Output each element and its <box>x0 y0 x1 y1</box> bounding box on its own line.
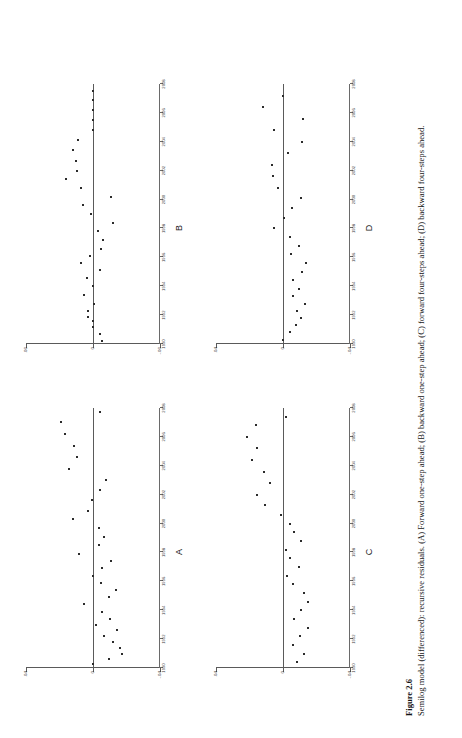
figure-caption: Figure 2.6 Semilog model (differenced): … <box>404 70 427 716</box>
scatter-point <box>87 316 89 318</box>
scatter-point <box>108 596 110 598</box>
scatter-point <box>92 119 94 121</box>
scatter-point <box>283 217 285 219</box>
x-axis-tick-label: 2000 <box>352 519 356 528</box>
y-axis-tick-label: 0 <box>281 671 285 673</box>
x-axis-line <box>349 84 350 344</box>
scatter-point <box>303 653 305 655</box>
scatter-point <box>296 310 298 312</box>
scatter-point <box>305 262 307 264</box>
x-axis-tick-label: 2008 <box>352 403 356 412</box>
x-axis-tick-label: 2006 <box>162 432 166 441</box>
x-axis-tick-label: 2004 <box>352 137 356 146</box>
panel-b: -.060.0619901992199419961998200020022004… <box>24 78 196 378</box>
scatter-point <box>76 456 78 458</box>
scatter-point <box>273 129 275 131</box>
scatter-point <box>86 277 88 279</box>
x-axis-tick-label: 1998 <box>352 548 356 557</box>
x-axis-tick-label: 2008 <box>162 403 166 412</box>
x-axis-tick-label: 2000 <box>162 195 166 204</box>
y-axis-tick-label: 0 <box>281 347 285 349</box>
x-axis-tick-label: 1990 <box>162 339 166 348</box>
scatter-point <box>292 583 294 585</box>
scatter-point <box>303 592 305 594</box>
x-axis-tick-label: 1998 <box>162 548 166 557</box>
x-axis-tick-label: 2002 <box>352 490 356 499</box>
scatter-point <box>300 317 302 319</box>
x-axis-tick-label: 1996 <box>162 577 166 586</box>
x-axis-tick-label: 1998 <box>352 224 356 233</box>
scatter-point <box>99 411 101 413</box>
panel-label-b: B <box>174 225 184 231</box>
scatter-point <box>285 549 287 551</box>
scatter-point <box>83 294 85 296</box>
scatter-point <box>98 544 100 546</box>
x-axis-tick-label: 2004 <box>162 137 166 146</box>
x-axis-tick-label: 1996 <box>352 577 356 586</box>
zero-reference-line <box>93 408 94 668</box>
scatter-point <box>298 245 300 247</box>
y-axis-tick-label: .04 <box>24 671 28 677</box>
x-axis-tick-label: 1996 <box>352 253 356 262</box>
scatter-point <box>298 566 300 568</box>
scatter-point <box>68 468 70 470</box>
scatter-point <box>109 618 111 620</box>
y-axis-tick-label: .04 <box>214 671 218 677</box>
scatter-point <box>80 262 82 264</box>
scatter-point <box>103 635 105 637</box>
scatter-point <box>101 611 103 613</box>
x-axis-tick-label: 1992 <box>162 634 166 643</box>
scatter-point <box>282 95 284 97</box>
scatter-point <box>302 118 304 120</box>
x-axis-tick-label: 2002 <box>162 490 166 499</box>
scatter-point <box>300 197 302 199</box>
scatter-point <box>99 489 101 491</box>
scatter-point <box>295 324 297 326</box>
scatter-point <box>291 207 293 209</box>
scatter-point <box>271 164 273 166</box>
y-axis-tick-label: .06 <box>24 347 28 353</box>
scatter-point <box>287 152 289 154</box>
scatter-point <box>92 285 94 287</box>
rotated-page-content: -.040.0419901992199419961998200020022004… <box>0 0 462 738</box>
figure-caption-text: Semilog model (differenced): recursive r… <box>416 70 427 716</box>
scatter-point <box>255 424 257 426</box>
x-axis-tick-label: 1992 <box>162 310 166 319</box>
x-axis-line <box>349 408 350 668</box>
x-axis-tick-label: 2004 <box>352 461 356 470</box>
scatter-point <box>92 129 94 131</box>
scatter-point <box>285 416 287 418</box>
scatter-point <box>92 320 94 322</box>
plot-area-a: -.040.0419901992199419961998200020022004… <box>26 408 160 668</box>
x-axis-tick-label: 1990 <box>352 339 356 348</box>
scatter-point <box>64 433 66 435</box>
x-axis-tick-label: 2006 <box>352 432 356 441</box>
scatter-point <box>99 269 101 271</box>
x-axis-tick-label: 1996 <box>162 253 166 262</box>
y-axis-tick-label: .04 <box>214 347 218 353</box>
scatter-point <box>87 510 89 512</box>
scatter-point <box>293 618 295 620</box>
zero-reference-line <box>93 84 94 344</box>
scatter-point <box>92 90 94 92</box>
scatter-point <box>103 536 105 538</box>
scatter-point <box>292 644 294 646</box>
scatter-point <box>293 531 295 533</box>
x-axis-tick-label: 1994 <box>162 606 166 615</box>
scatter-point <box>282 339 284 341</box>
scatter-point <box>102 239 104 241</box>
panel-d: -.040.0419901992199419961998200020022004… <box>214 78 386 378</box>
x-axis-tick-label: 1992 <box>352 310 356 319</box>
x-axis-line <box>159 408 160 668</box>
scatter-point <box>87 310 89 312</box>
scatter-point <box>286 575 288 577</box>
scatter-point <box>292 279 294 281</box>
scatter-point <box>112 641 114 643</box>
scatter-point <box>292 295 294 297</box>
scatter-point <box>307 601 309 603</box>
scatter-point <box>105 479 107 481</box>
panel-label-d: D <box>364 225 374 232</box>
book-page: -.040.0419901992199419961998200020022004… <box>0 0 462 738</box>
panel-c: -.040.0419901992199419961998200020022004… <box>214 402 386 702</box>
scatter-point <box>76 170 78 172</box>
